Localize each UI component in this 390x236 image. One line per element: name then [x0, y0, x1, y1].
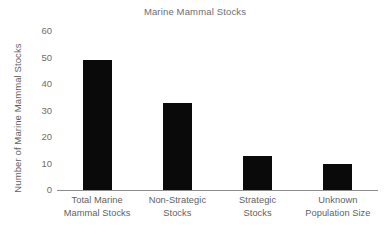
x-axis-tick-label: Total MarineMammal Stocks	[57, 194, 137, 219]
chart-title: Marine Mammal Stocks	[0, 6, 390, 17]
y-axis-tick-label: 10	[30, 159, 52, 169]
y-axis-tick-label: 50	[30, 53, 52, 63]
x-axis-tick-label: Non-StrategicStocks	[137, 194, 217, 219]
x-axis-tick-label-line1: Total Marine	[57, 194, 137, 207]
bar	[243, 156, 272, 190]
y-axis-tick-label: 60	[30, 26, 52, 36]
x-axis-tick-label-line2: Stocks	[137, 207, 217, 220]
y-axis-tick-label: 30	[30, 106, 52, 116]
x-axis-line	[57, 190, 378, 191]
y-axis-tick-label: 0	[30, 185, 52, 195]
bar	[163, 103, 192, 190]
x-axis-tick-label-line1: Strategic	[218, 194, 298, 207]
y-axis-tick-label: 40	[30, 79, 52, 89]
y-axis-tick-label: 20	[30, 132, 52, 142]
x-axis-tick-label-line2: Stocks	[218, 207, 298, 220]
y-axis-title: Number of Marine Mammal Stocks	[10, 0, 26, 236]
bar	[83, 60, 112, 190]
x-axis-tick-label-line1: Non-Strategic	[137, 194, 217, 207]
chart-figure: Marine Mammal Stocks Number of Marine Ma…	[0, 0, 390, 236]
x-axis-tick-label-line2: Population Size	[298, 207, 378, 220]
x-axis-tick-label: UnknownPopulation Size	[298, 194, 378, 219]
plot-area	[57, 26, 378, 190]
x-axis-tick-labels: Total MarineMammal StocksNon-StrategicSt…	[57, 194, 378, 234]
x-axis-tick-label: StrategicStocks	[218, 194, 298, 219]
x-axis-tick-label-line1: Unknown	[298, 194, 378, 207]
y-axis-tick-labels: 0102030405060	[26, 0, 52, 236]
bar	[323, 164, 352, 190]
x-axis-tick-label-line2: Mammal Stocks	[57, 207, 137, 220]
